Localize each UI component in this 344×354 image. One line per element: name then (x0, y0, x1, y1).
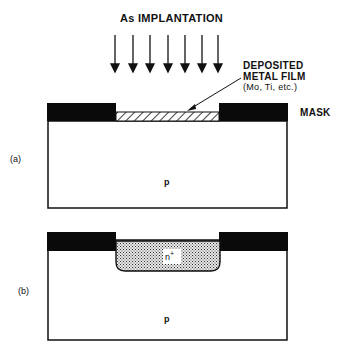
film-label-line2: METAL FILM (243, 71, 306, 82)
implantation-arrows (111, 35, 222, 72)
mask-right-a (219, 103, 288, 121)
substrate-a (48, 121, 287, 208)
panel-a-label: (a) (10, 154, 21, 164)
substrate-b-label: p (164, 314, 170, 324)
n-plus-sup: + (170, 250, 174, 257)
mask-right-b (219, 232, 288, 251)
film-label-line1: DEPOSITED (243, 60, 306, 71)
diagram-canvas (0, 0, 344, 354)
mask-label: MASK (300, 107, 331, 118)
n-plus-label: n+ (165, 250, 174, 262)
panel-b-label: (b) (18, 286, 29, 296)
mask-left-b (47, 232, 116, 251)
film-label-line3: (Mo, Ti, etc.) (243, 82, 306, 93)
implantation-title: As IMPLANTATION (120, 12, 223, 24)
metal-film (116, 112, 219, 121)
substrate-a-label: p (164, 177, 170, 187)
panel-a-structure (47, 78, 288, 208)
mask-left-a (47, 103, 116, 121)
film-label: DEPOSITED METAL FILM (Mo, Ti, etc.) (243, 60, 306, 93)
